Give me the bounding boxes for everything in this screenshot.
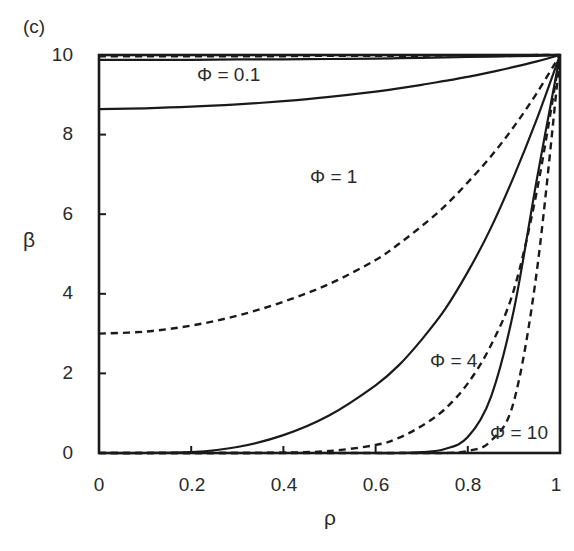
- curve-4-solid: [99, 55, 560, 453]
- annotation-phi-4: Φ = 4: [430, 350, 477, 372]
- x-tick-label: 0.4: [259, 474, 309, 496]
- annotation-phi-1: Φ = 1: [310, 166, 357, 188]
- x-tick-label: 0: [74, 474, 124, 496]
- curve-10-solid: [99, 55, 560, 453]
- y-tick-label: 10: [33, 44, 73, 66]
- y-tick-label: 0: [33, 442, 73, 464]
- line-chart: [0, 0, 574, 551]
- x-tick-label: 0.6: [351, 474, 401, 496]
- y-tick-label: 6: [33, 203, 73, 225]
- y-tick-label: 8: [33, 123, 73, 145]
- x-tick-label: 1: [531, 474, 574, 496]
- curve-1-solid: [99, 55, 560, 109]
- tick-marks: [99, 55, 560, 453]
- curve-group: [99, 55, 560, 453]
- y-tick-label: 2: [33, 362, 73, 384]
- plot-frame: [99, 55, 560, 453]
- curve-10-dashed: [99, 55, 560, 453]
- curve-4-dashed: [99, 55, 560, 453]
- y-axis-label: β: [23, 228, 35, 252]
- annotation-phi-0-1: Φ = 0.1: [197, 64, 260, 86]
- x-axis-label: ρ: [324, 506, 336, 530]
- x-tick-label: 0.2: [167, 474, 217, 496]
- x-tick-label: 0.8: [443, 474, 493, 496]
- annotation-phi-10: Φ = 10: [490, 422, 548, 444]
- y-tick-label: 4: [33, 282, 73, 304]
